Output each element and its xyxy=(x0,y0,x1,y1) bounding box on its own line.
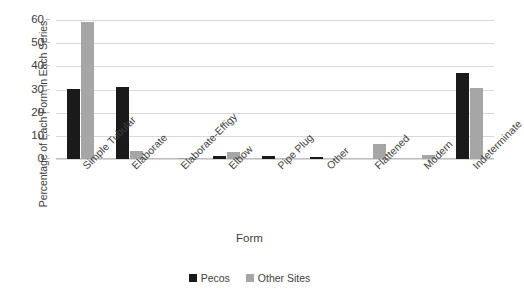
bar-group xyxy=(251,20,300,159)
bar-pecos[interactable] xyxy=(456,73,469,159)
bar-pecos[interactable] xyxy=(310,157,323,159)
y-tickmark-30 xyxy=(46,89,50,90)
y-tick-20: 20 xyxy=(0,107,44,118)
y-tickmark-50 xyxy=(46,42,50,43)
legend-label: Other Sites xyxy=(258,272,311,284)
bar-pecos[interactable] xyxy=(262,156,275,159)
x-axis-tick-labels: Simple TubularElaborateElaborate-EffigyE… xyxy=(56,160,494,226)
legend-swatch-gray xyxy=(246,274,254,282)
bar-other-sites[interactable] xyxy=(81,22,94,159)
x-axis-title: Form xyxy=(0,232,499,244)
bar-other-sites[interactable] xyxy=(470,88,483,159)
chart-legend: PecosOther Sites xyxy=(0,272,499,284)
y-tick-50: 50 xyxy=(0,37,44,48)
bar-pecos[interactable] xyxy=(67,89,80,159)
legend-label: Pecos xyxy=(201,272,230,284)
y-tickmark-40 xyxy=(46,65,50,66)
y-tick-10: 10 xyxy=(0,130,44,141)
y-tick-30: 30 xyxy=(0,84,44,95)
y-tickmark-0 xyxy=(46,158,50,159)
y-tickmark-20 xyxy=(46,112,50,113)
y-tickmark-10 xyxy=(46,135,50,136)
legend-item[interactable]: Pecos xyxy=(189,272,230,284)
y-tickmark-60 xyxy=(46,19,50,20)
y-axis-tick-labels: 6050403020100 xyxy=(0,20,52,159)
bar-pecos[interactable] xyxy=(213,156,226,159)
legend-item[interactable]: Other Sites xyxy=(246,272,311,284)
bar-group xyxy=(56,20,105,159)
y-tick-0: 0 xyxy=(0,153,44,164)
bar-group xyxy=(445,20,494,159)
y-tick-60: 60 xyxy=(0,14,44,25)
legend-swatch-black xyxy=(189,274,197,282)
y-tick-40: 40 xyxy=(0,60,44,71)
bar-group xyxy=(348,20,397,159)
